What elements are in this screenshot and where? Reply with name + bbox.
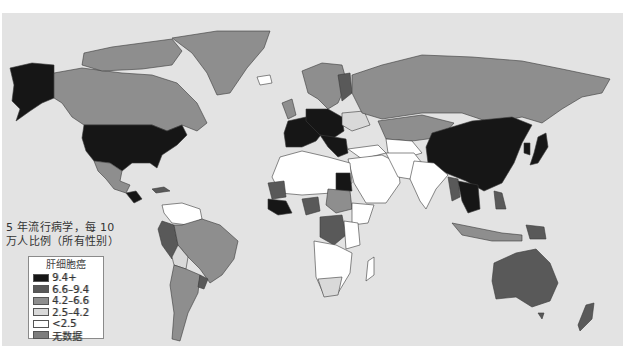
region-nigeria <box>302 197 320 215</box>
region-horn-of-africa <box>352 203 374 225</box>
legend-label: 6.6–9.4 <box>52 284 89 295</box>
region-canada <box>54 68 207 131</box>
region-myanmar <box>448 177 460 201</box>
legend-label: 9.4+ <box>52 272 76 283</box>
region-canada-arctic <box>82 39 182 71</box>
legend-item: 无数据 <box>33 330 99 342</box>
legend-swatch <box>33 297 49 305</box>
caption-line-2: 万人比例（所有性别） <box>6 235 119 249</box>
legend-swatch <box>33 285 49 293</box>
legend-swatch <box>33 320 49 328</box>
legend-swatch <box>33 331 49 339</box>
region-tasmania <box>538 313 544 319</box>
region-greenland <box>172 31 270 95</box>
region-new-zealand <box>578 303 594 331</box>
region-italy-balkans <box>320 135 348 157</box>
legend-item: 4.2–6.6 <box>33 295 99 307</box>
caption-line-1: 5 年流行病学，每 10 <box>6 221 119 235</box>
region-uk <box>282 99 296 119</box>
region-japan <box>530 133 548 165</box>
map-caption: 5 年流行病学，每 10 万人比例（所有性别） <box>6 221 119 249</box>
legend: 肝细胞癌 9.4+ 6.6–9.4 4.2–6.6 2.5–4.2 <2.5 无… <box>28 256 104 339</box>
legend-label: 2.5–4.2 <box>52 307 89 318</box>
region-drc <box>320 215 346 245</box>
region-central-america <box>126 191 142 203</box>
legend-swatch <box>33 308 49 316</box>
region-iceland <box>257 75 272 85</box>
region-west-africa-coast <box>268 199 292 215</box>
legend-title: 肝细胞癌 <box>33 259 99 271</box>
region-southeast-asia <box>458 181 480 213</box>
region-mauritania <box>268 181 286 199</box>
region-philippines <box>494 191 506 209</box>
region-argentina <box>170 265 200 341</box>
region-egypt <box>336 173 352 191</box>
region-alaska <box>10 63 54 121</box>
region-australia <box>492 249 558 307</box>
legend-swatch <box>33 274 49 282</box>
legend-label: 4.2–6.6 <box>52 295 89 306</box>
region-indonesia <box>452 223 522 241</box>
region-madagascar <box>366 257 374 281</box>
region-south-africa <box>318 277 342 297</box>
legend-item: 2.5–4.2 <box>33 307 99 319</box>
legend-item: 9.4+ <box>33 272 99 284</box>
legend-label: 无数据 <box>52 328 82 343</box>
region-russia <box>352 55 610 123</box>
region-east-africa <box>344 221 360 249</box>
region-sudan <box>326 189 352 213</box>
legend-item: 6.6–9.4 <box>33 284 99 296</box>
region-papua <box>526 225 546 239</box>
region-caribbean <box>152 187 170 193</box>
region-korea <box>524 143 530 155</box>
